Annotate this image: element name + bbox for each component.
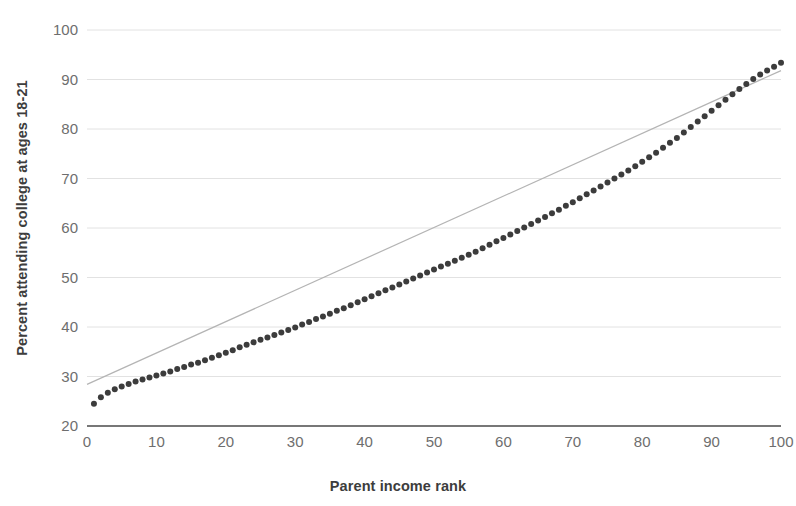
data-point: [382, 287, 388, 293]
y-axis-tick-label: 20: [18, 418, 78, 433]
data-point: [167, 369, 173, 375]
data-point: [105, 390, 111, 396]
data-point: [264, 334, 270, 340]
data-point: [389, 284, 395, 290]
data-point: [764, 68, 770, 74]
data-point: [396, 281, 402, 287]
data-point: [757, 72, 763, 78]
data-point: [258, 337, 264, 343]
scatter-chart: Percent attending college at ages 18-21 …: [0, 0, 796, 506]
data-point: [771, 64, 777, 70]
data-point: [91, 401, 97, 407]
data-point: [653, 150, 659, 156]
x-axis-tick-label: 90: [682, 434, 742, 449]
data-point: [195, 360, 201, 366]
data-point: [646, 154, 652, 160]
data-point: [528, 221, 534, 227]
y-axis-tick-label: 50: [18, 270, 78, 285]
data-point: [722, 97, 728, 103]
data-point: [313, 316, 319, 322]
data-point: [375, 290, 381, 296]
data-point: [618, 172, 624, 178]
data-point: [556, 207, 562, 213]
x-axis-tick-label: 100: [751, 434, 796, 449]
data-point: [466, 252, 472, 258]
data-point: [369, 293, 375, 299]
data-point: [480, 245, 486, 251]
data-point: [591, 187, 597, 193]
data-point: [445, 261, 451, 267]
data-points: [91, 60, 784, 407]
data-point: [292, 324, 298, 330]
data-point: [473, 249, 479, 255]
data-point: [695, 119, 701, 125]
data-point: [681, 129, 687, 135]
y-axis-tick-label: 100: [18, 22, 78, 37]
data-point: [521, 225, 527, 231]
data-point: [299, 322, 305, 328]
data-point: [278, 329, 284, 335]
data-point: [452, 258, 458, 264]
y-axis-tick-label: 70: [18, 171, 78, 186]
data-point: [126, 381, 132, 387]
x-axis-tick-label: 40: [335, 434, 395, 449]
data-point: [341, 305, 347, 311]
data-point: [334, 308, 340, 314]
data-point: [577, 195, 583, 201]
data-point: [160, 371, 166, 377]
x-axis-tick-label: 60: [473, 434, 533, 449]
data-point: [223, 350, 229, 356]
data-point: [417, 273, 423, 279]
data-point: [459, 255, 465, 261]
data-point: [632, 163, 638, 169]
data-point: [674, 135, 680, 141]
data-point: [584, 191, 590, 197]
data-point: [153, 373, 159, 379]
x-axis-tick-label: 30: [265, 434, 325, 449]
data-point: [355, 299, 361, 305]
data-point: [216, 352, 222, 358]
data-point: [146, 374, 152, 380]
data-point: [778, 60, 784, 66]
data-point: [403, 278, 409, 284]
data-point: [320, 314, 326, 320]
y-axis-tick-label: 90: [18, 72, 78, 87]
data-point: [140, 376, 146, 382]
y-axis-tick-label: 80: [18, 121, 78, 136]
data-point: [209, 355, 215, 361]
y-axis-tick-label: 40: [18, 319, 78, 334]
data-point: [625, 168, 631, 174]
data-point: [327, 311, 333, 317]
x-axis-title: Parent income rank: [0, 478, 796, 494]
data-point: [493, 238, 499, 244]
data-point: [500, 235, 506, 241]
x-axis-tick-label: 80: [612, 434, 672, 449]
x-axis-tick-label: 20: [196, 434, 256, 449]
data-point: [563, 203, 569, 209]
data-point: [702, 113, 708, 119]
data-point: [736, 86, 742, 92]
data-point: [285, 327, 291, 333]
data-point: [611, 176, 617, 182]
data-point: [535, 218, 541, 224]
data-point: [410, 275, 416, 281]
data-point: [639, 159, 645, 165]
data-point: [244, 342, 250, 348]
data-point: [348, 302, 354, 308]
data-point: [542, 214, 548, 220]
data-point: [237, 344, 243, 350]
x-axis-tick-label: 10: [126, 434, 186, 449]
data-point: [271, 332, 277, 338]
data-point: [188, 362, 194, 368]
data-point: [709, 108, 715, 114]
plot-area: [0, 0, 796, 506]
data-point: [750, 76, 756, 82]
x-axis-tick-label: 70: [543, 434, 603, 449]
data-point: [202, 357, 208, 363]
x-axis-tick-label: 50: [404, 434, 464, 449]
data-point: [549, 210, 555, 216]
data-point: [306, 319, 312, 325]
y-axis-tick-label: 60: [18, 220, 78, 235]
data-point: [688, 124, 694, 130]
data-point: [431, 267, 437, 273]
